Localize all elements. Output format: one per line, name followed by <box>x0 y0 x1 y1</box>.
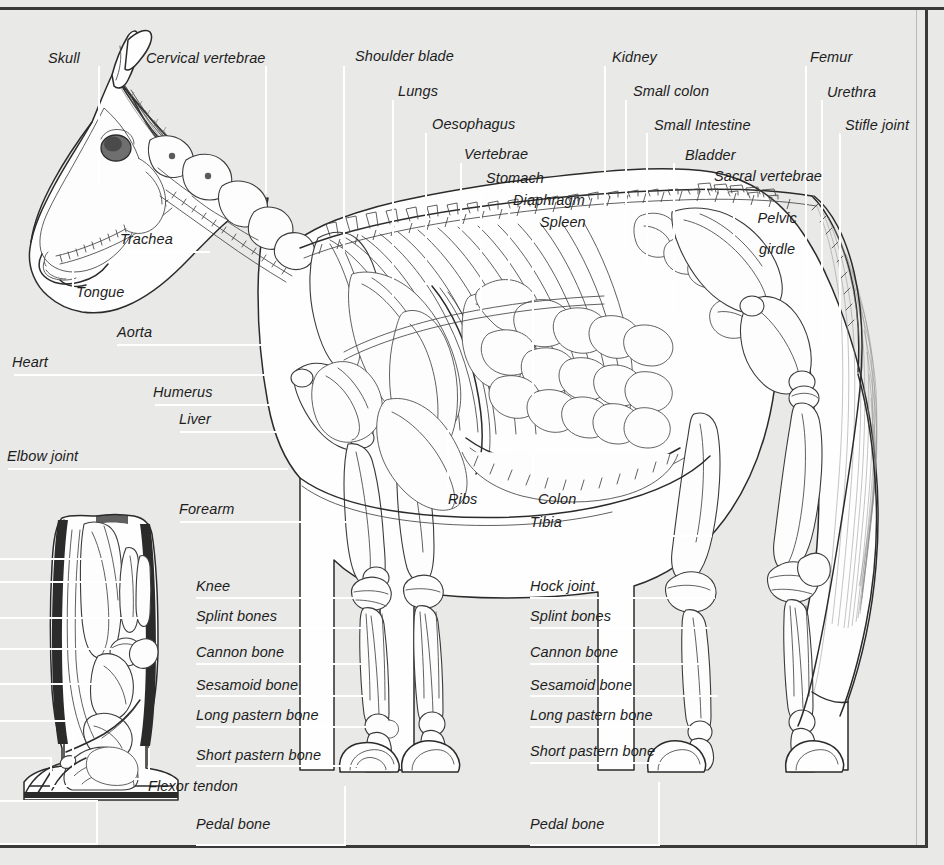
leader-ribs <box>447 430 449 490</box>
leader-inset-6 <box>0 720 74 722</box>
label-kidney: Kidney <box>612 49 657 65</box>
label-bladder: Bladder <box>685 147 736 163</box>
label-cannon-bone-hind: Cannon bone <box>530 644 618 660</box>
label-forearm: Forearm <box>179 501 235 517</box>
label-tibia: Tibia <box>530 514 562 530</box>
label-elbow-joint: Elbow joint <box>7 448 78 464</box>
label-liver: Liver <box>179 411 211 427</box>
label-pelvic-girdle-line1: Pelvic <box>758 210 797 226</box>
leader-cannon-bone-front <box>196 663 362 665</box>
label-oesophagus: Oesophagus <box>432 116 515 132</box>
leader-hock-joint <box>530 597 715 599</box>
leader-flexor-tendon <box>118 778 148 780</box>
leader-cervical-vertebrae <box>265 66 267 194</box>
label-cervical-vertebrae: Cervical vertebrae <box>146 50 265 66</box>
leader-aorta <box>117 344 269 346</box>
leader-trachea <box>122 251 210 253</box>
label-diaphragm: Diaphragm <box>513 192 585 208</box>
leader-colon <box>532 452 534 490</box>
leader-inset-7b <box>50 757 52 786</box>
leader-splint-bones-front <box>196 627 361 629</box>
leader-cannon-bone-hind <box>530 663 708 665</box>
label-pedal-bone-hind: Pedal bone <box>530 816 604 832</box>
label-tongue: Tongue <box>76 284 124 300</box>
leader-pelvic-girdle <box>733 206 735 244</box>
leader-femur <box>805 66 807 316</box>
leader-sesamoid-bone-front <box>196 695 368 697</box>
leader-humerus <box>155 404 280 406</box>
leader-short-pastern-hind <box>530 762 695 764</box>
leader-knee <box>196 597 356 599</box>
leader-shoulder-blade <box>343 66 345 258</box>
leader-urethra <box>821 100 823 346</box>
leader-long-pastern-front <box>196 726 370 728</box>
leader-long-pastern-hind <box>530 726 710 728</box>
leader-heart <box>14 374 269 376</box>
label-heart: Heart <box>12 354 48 370</box>
leader-stifle-joint <box>839 133 841 401</box>
label-urethra: Urethra <box>827 84 876 100</box>
label-knee: Knee <box>196 578 230 594</box>
leader-sacral-vertebrae <box>705 187 707 199</box>
label-stifle-joint: Stifle joint <box>845 117 909 133</box>
label-skull: Skull <box>48 50 80 66</box>
label-sacral-vertebrae: Sacral vertebrae <box>714 168 822 184</box>
leader-inset-8 <box>0 800 98 802</box>
leader-inset-6b <box>72 720 74 778</box>
leader-small-colon <box>625 100 627 248</box>
leader-inset-2 <box>0 581 125 583</box>
leader-pedal-bone-hind <box>530 844 660 846</box>
label-cannon-bone-front: Cannon bone <box>196 644 284 660</box>
leader-inset-9 <box>0 843 98 845</box>
leader-tibia <box>530 535 712 537</box>
label-aorta: Aorta <box>117 324 152 340</box>
leader-inset-3 <box>0 617 148 619</box>
label-pelvic-girdle: Pelvic girdle <box>741 196 797 273</box>
leader-vertebrae <box>460 163 462 231</box>
leader-oesophagus <box>425 133 427 285</box>
label-stomach: Stomach <box>486 170 544 186</box>
label-trachea: Trachea <box>120 231 173 247</box>
label-lungs: Lungs <box>398 83 438 99</box>
label-short-pastern-front: Short pastern bone <box>196 747 321 763</box>
label-vertebrae: Vertebrae <box>464 146 528 162</box>
label-small-colon: Small colon <box>633 83 709 99</box>
leader-inset-4 <box>0 648 128 650</box>
leader-kidney <box>604 66 606 232</box>
leader-inset-8b <box>96 800 98 844</box>
label-colon: Colon <box>538 491 576 507</box>
label-splint-bones-front: Splint bones <box>196 608 277 624</box>
label-humerus: Humerus <box>153 384 213 400</box>
leader-skull <box>98 66 100 184</box>
label-ribs: Ribs <box>448 491 477 507</box>
leader-splint-bones-hind <box>530 627 710 629</box>
leader-stomach <box>480 187 482 311</box>
label-flexor-tendon: Flexor tendon <box>148 778 238 794</box>
leader-bladder <box>673 163 675 313</box>
leader-elbow-joint <box>8 468 288 470</box>
leader-pedal-bone-front-line <box>196 844 346 846</box>
leader-tongue-stem <box>72 270 74 306</box>
leader-spleen <box>532 231 534 421</box>
leader-forearm <box>180 521 350 523</box>
leader-flexor-stem <box>148 748 150 780</box>
label-short-pastern-hind: Short pastern bone <box>530 743 655 759</box>
leader-small-intestine <box>646 133 648 269</box>
label-small-intestine: Small Intestine <box>654 117 751 133</box>
leader-lungs <box>392 100 394 300</box>
leader-short-pastern-front <box>196 765 368 767</box>
label-pedal-bone-front: Pedal bone <box>196 816 270 832</box>
label-long-pastern-hind: Long pastern bone <box>530 707 653 723</box>
label-long-pastern-front: Long pastern bone <box>196 707 319 723</box>
leader-inset-5 <box>0 683 95 685</box>
leader-inset-1 <box>0 558 110 560</box>
leader-diaphragm <box>508 209 510 291</box>
leader-pedal-bone-front-stem <box>344 786 346 844</box>
label-shoulder-blade: Shoulder blade <box>355 48 454 64</box>
leader-pedal-bone-hind-stem <box>658 782 660 844</box>
label-femur: Femur <box>810 49 852 65</box>
label-pelvic-girdle-line2: girdle <box>759 241 795 257</box>
leader-liver <box>180 431 282 433</box>
leader-inset-7 <box>0 757 52 759</box>
label-splint-bones-hind: Splint bones <box>530 608 611 624</box>
